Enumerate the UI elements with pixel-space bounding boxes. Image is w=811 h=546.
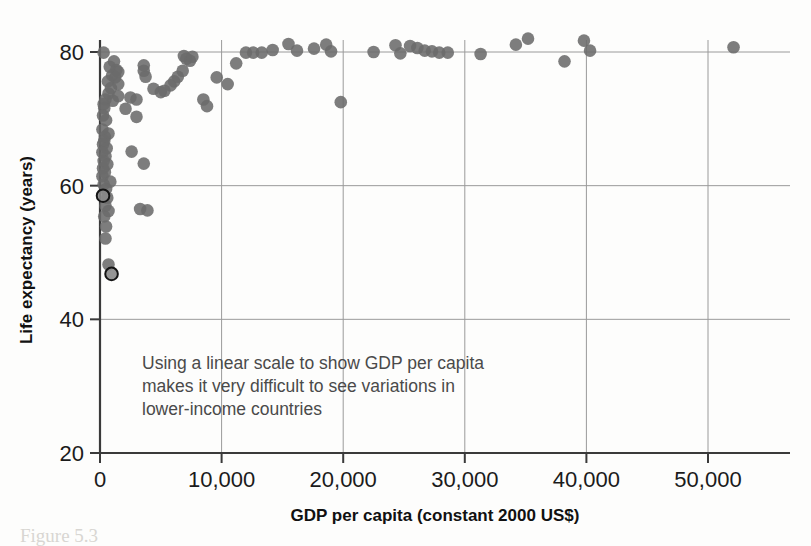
data-point: [266, 44, 279, 57]
data-point: [727, 41, 740, 54]
annotation-line-1: Using a linear scale to show GDP per cap…: [142, 353, 484, 373]
scatter-chart: 20406080 010,00020,00030,00040,00050,000…: [0, 0, 811, 546]
data-point: [137, 157, 150, 170]
data-point: [230, 57, 243, 70]
highlighted-data-point: [105, 268, 118, 281]
data-point: [522, 32, 535, 45]
data-point: [308, 42, 321, 55]
data-point: [210, 71, 223, 84]
data-point: [186, 50, 199, 63]
x-tick-label: 10,000: [188, 467, 255, 492]
x-axis-title: GDP per capita (constant 2000 US$): [291, 506, 580, 525]
data-point: [119, 103, 132, 116]
data-point: [255, 46, 268, 59]
data-point: [99, 232, 112, 245]
data-point: [584, 44, 597, 57]
data-point: [291, 44, 304, 57]
data-point: [97, 46, 110, 59]
highlighted-data-point: [97, 189, 110, 202]
caption-ghost-text: Figure 5.3: [20, 525, 98, 546]
y-tick-label: 20: [60, 441, 84, 466]
data-point: [474, 48, 487, 61]
data-point: [367, 46, 380, 59]
data-point: [141, 204, 154, 217]
figure-container: 20406080 010,00020,00030,00040,00050,000…: [0, 0, 811, 546]
data-point: [334, 96, 347, 109]
x-tick-label: 50,000: [674, 467, 741, 492]
x-tick-label: 30,000: [431, 467, 498, 492]
annotation-line-3: lower-income countries: [142, 399, 322, 419]
x-tick-label: 40,000: [553, 467, 620, 492]
data-point: [201, 100, 214, 113]
data-point: [558, 55, 571, 68]
y-tick-label: 60: [60, 174, 84, 199]
data-point: [100, 220, 113, 233]
data-point: [325, 45, 338, 58]
y-tick-label: 80: [60, 40, 84, 65]
data-point: [130, 111, 143, 124]
data-point: [130, 93, 143, 106]
annotation-line-2: makes it very difficult to see variation…: [142, 376, 455, 396]
y-axis-title: Life expectancy (years): [17, 156, 36, 344]
data-point: [441, 46, 454, 59]
data-point: [125, 145, 138, 158]
y-tick-label: 40: [60, 307, 84, 332]
data-point: [176, 64, 189, 77]
data-point: [510, 38, 523, 51]
data-point: [137, 59, 150, 72]
data-point: [139, 70, 152, 83]
x-tick-label: 0: [94, 467, 106, 492]
data-point: [221, 78, 234, 91]
x-tick-label: 20,000: [310, 467, 377, 492]
